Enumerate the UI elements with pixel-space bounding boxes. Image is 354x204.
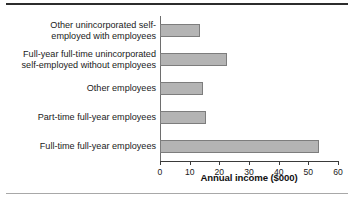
bar [160,53,227,66]
top-divider-rule [6,3,348,5]
x-axis-tick-mark [308,161,309,165]
bar-row [160,132,338,161]
category-axis-labels: Full-time full-year employeesPart-time f… [0,16,156,161]
bar-chart-figure: Full-time full-year employeesPart-time f… [0,0,354,204]
category-label: Full-time full-year employees [0,132,156,161]
x-axis-tick-mark [190,161,191,165]
bar-row [160,103,338,132]
x-axis-tick-mark [338,161,339,165]
x-axis-tick-mark [279,161,280,165]
bar-row [160,16,338,45]
bar [160,140,319,153]
bar-row [160,74,338,103]
x-axis-title: Annual income ($000) [160,172,338,183]
x-axis-tick-mark [249,161,250,165]
bar-row [160,45,338,74]
category-label: Other unincorporated self- employed with… [0,16,156,45]
category-label: Other employees [0,74,156,103]
plot-area: 0102030405060 [160,16,338,161]
bottom-divider-rule [6,193,348,194]
x-axis-tick-mark [219,161,220,165]
category-label: Part-time full-year employees [0,103,156,132]
bar [160,82,203,95]
category-label: Full-year full-time unincorporated self-… [0,45,156,74]
x-axis-tick-mark [160,161,161,165]
bar [160,24,200,37]
bar [160,111,206,124]
